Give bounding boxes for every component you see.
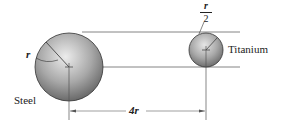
steel-radius-label: r — [26, 49, 30, 60]
fraction-numerator: r — [204, 0, 208, 11]
fraction-denominator: 2 — [204, 13, 209, 24]
separation-label: 4r — [129, 105, 139, 116]
titanium-radius-fraction: r 2 — [198, 1, 214, 24]
steel-label: Steel — [14, 95, 36, 106]
two-spheres-diagram — [0, 0, 287, 130]
titanium-label: Titanium — [228, 44, 268, 55]
